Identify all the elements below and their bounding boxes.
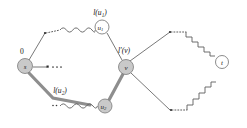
edge-upper-dotted [46,30,60,33]
junction-dot-upper-left [44,32,46,34]
edge-wavy-to-u2 [60,104,97,108]
edge-label-v: l'(v) [118,46,131,55]
node-t: t [216,56,229,69]
edge-v-to-upper-right [130,32,170,61]
node-s: s [18,59,33,74]
ellipsis-after-s [47,66,62,68]
edge-s-to-upper-branch [29,33,45,60]
edge-label-u1: l(u1) [93,8,107,18]
edge-zigzag-lower-to-t [187,82,216,110]
junction-dot-upper-right [169,31,171,33]
edge-zigzag-upper-to-t [186,32,215,56]
edge-u2-to-v-thick [109,74,123,100]
node-u1: u1 [95,20,109,34]
edge-v-to-lower-right [131,73,170,110]
edge-label-u2: l(u2) [53,86,67,96]
node-v: v [119,60,134,75]
graph-diagram-figure: s u1 u2 v t 0 l(u1) l(u2) l'(v) [0,0,247,128]
ellipsis-lower-left [52,105,57,107]
weight-label-zero: 0 [20,47,24,56]
graph-canvas: s u1 u2 v t 0 l(u1) l(u2) l'(v) [0,0,247,128]
junction-dot-lower-right [170,109,172,111]
edge-wavy-to-u1 [60,28,95,32]
node-u2: u2 [98,99,112,113]
node-s-label: s [24,63,27,71]
